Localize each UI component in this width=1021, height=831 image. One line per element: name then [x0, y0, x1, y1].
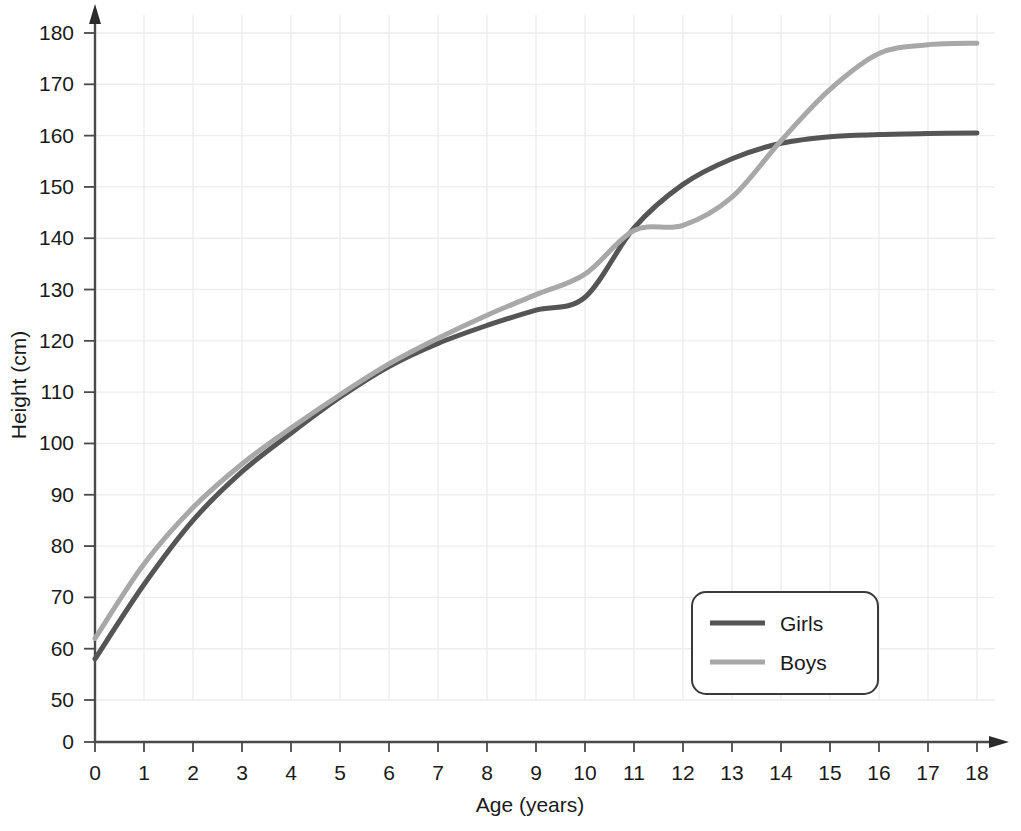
y-tick-label: 160 — [39, 124, 74, 147]
x-tick-label: 13 — [720, 761, 743, 784]
x-tick-label: 4 — [285, 761, 297, 784]
x-axis-title: Age (years) — [476, 793, 585, 816]
y-tick-label: 90 — [51, 483, 74, 506]
y-tick-label: 130 — [39, 278, 74, 301]
x-tick-label: 18 — [965, 761, 988, 784]
x-tick-label: 3 — [236, 761, 248, 784]
y-axis-ticks: 05060708090100110120130140150160170180 — [39, 21, 95, 753]
x-tick-label: 11 — [623, 761, 645, 784]
y-tick-label: 0 — [62, 730, 74, 753]
y-tick-label: 60 — [51, 637, 74, 660]
y-tick-label: 150 — [39, 175, 74, 198]
x-axis-ticks: 0123456789101112131415161718 — [89, 742, 989, 784]
y-tick-label: 110 — [41, 380, 74, 403]
chart-canvas: 05060708090100110120130140150160170180 0… — [0, 0, 1021, 831]
x-tick-label: 12 — [671, 761, 694, 784]
y-tick-label: 170 — [39, 72, 74, 95]
y-tick-label: 180 — [39, 21, 74, 44]
legend-box — [692, 592, 878, 694]
x-axis-arrowhead — [989, 736, 1009, 748]
y-tick-label: 120 — [39, 329, 74, 352]
chart-legend: Girls Boys — [692, 592, 878, 694]
x-tick-label: 6 — [383, 761, 395, 784]
x-tick-label: 8 — [481, 761, 493, 784]
y-tick-label: 140 — [39, 226, 74, 249]
y-tick-label: 80 — [51, 534, 74, 557]
x-tick-label: 1 — [138, 761, 150, 784]
y-axis-title: Height (cm) — [7, 331, 30, 440]
x-tick-label: 16 — [867, 761, 890, 784]
x-tick-label: 5 — [334, 761, 346, 784]
y-axis-arrowhead — [89, 4, 101, 24]
x-tick-label: 0 — [89, 761, 101, 784]
x-tick-label: 2 — [187, 761, 199, 784]
x-tick-label: 10 — [573, 761, 596, 784]
x-tick-label: 17 — [916, 761, 939, 784]
growth-chart: 05060708090100110120130140150160170180 0… — [0, 0, 1021, 831]
legend-label-boys: Boys — [780, 651, 827, 674]
y-tick-label: 70 — [51, 585, 74, 608]
y-tick-label: 100 — [39, 431, 74, 454]
legend-label-girls: Girls — [780, 612, 823, 635]
y-tick-label: 50 — [51, 688, 74, 711]
x-tick-label: 7 — [432, 761, 444, 784]
x-tick-label: 14 — [769, 761, 793, 784]
x-tick-label: 9 — [530, 761, 542, 784]
x-tick-label: 15 — [818, 761, 841, 784]
